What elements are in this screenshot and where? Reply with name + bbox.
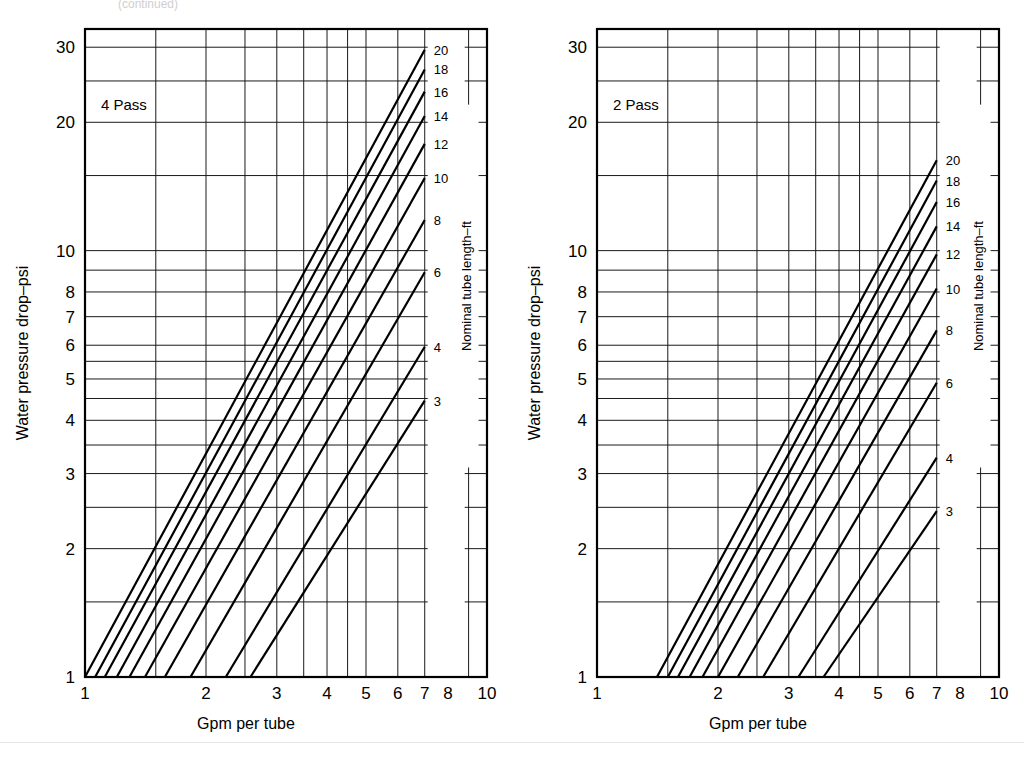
y-tick-label: 20 <box>568 113 587 132</box>
legend-title: Nominal tube length–ft <box>459 221 474 351</box>
y-tick-label: 2 <box>66 540 75 559</box>
page-bottom-rule <box>0 742 1024 743</box>
legend-label-tube-length-12: 12 <box>434 137 448 152</box>
y-tick-label: 5 <box>578 370 587 389</box>
legend-label-tube-length-18: 18 <box>434 62 448 77</box>
chart-svg-2-pass: 2018161412108643Nominal tube length–ft12… <box>512 0 1024 760</box>
pass-label: 2 Pass <box>613 96 659 113</box>
plot-border <box>85 29 487 677</box>
x-tick-label: 6 <box>905 684 914 703</box>
data-curve-tube-length-18 <box>95 69 425 677</box>
chart-panel-4-pass: 2018161412108643Nominal tube length–ft12… <box>0 0 512 760</box>
chart-panel-2-pass: 2018161412108643Nominal tube length–ft12… <box>512 0 1024 760</box>
figure-canvas: (continued) 2018161412108643Nominal tube… <box>0 0 1024 760</box>
x-tick-label: 2 <box>713 684 722 703</box>
legend-label-tube-length-20: 20 <box>434 43 448 58</box>
y-tick-label: 30 <box>568 38 587 57</box>
y-tick-label: 7 <box>66 308 75 327</box>
chart-svg-4-pass: 2018161412108643Nominal tube length–ft12… <box>0 0 512 760</box>
legend-label-tube-length-14: 14 <box>434 109 448 124</box>
x-tick-label: 4 <box>834 684 843 703</box>
data-curve-tube-length-20 <box>657 160 937 677</box>
legend-label-tube-length-3: 3 <box>434 394 441 409</box>
data-curve-tube-length-3 <box>824 511 937 677</box>
x-tick-label: 1 <box>80 684 89 703</box>
data-curve-tube-length-16 <box>678 202 937 677</box>
y-tick-label: 30 <box>56 38 75 57</box>
x-tick-label: 7 <box>420 684 429 703</box>
y-tick-label: 8 <box>578 283 587 302</box>
legend-label-tube-length-12: 12 <box>946 247 960 262</box>
x-tick-label: 3 <box>784 684 793 703</box>
data-curve-tube-length-14 <box>117 116 425 677</box>
data-curve-tube-length-18 <box>668 181 937 677</box>
data-curve-tube-length-10 <box>718 289 937 677</box>
x-tick-label: 8 <box>955 684 964 703</box>
legend-label-tube-length-10: 10 <box>946 282 960 297</box>
y-tick-label: 6 <box>578 336 587 355</box>
legend-label-tube-length-20: 20 <box>946 153 960 168</box>
y-tick-label: 7 <box>578 308 587 327</box>
x-tick-label: 1 <box>592 684 601 703</box>
data-curve-tube-length-14 <box>690 226 937 677</box>
legend-mask <box>940 30 977 677</box>
y-tick-label: 10 <box>568 242 587 261</box>
legend-label-tube-length-14: 14 <box>946 219 960 234</box>
x-tick-label: 4 <box>322 684 331 703</box>
y-tick-label: 4 <box>578 411 587 430</box>
x-axis-title: Gpm per tube <box>197 715 295 732</box>
y-tick-label: 5 <box>66 370 75 389</box>
data-curve-tube-length-12 <box>703 254 937 677</box>
y-tick-label: 6 <box>66 336 75 355</box>
x-tick-label: 7 <box>932 684 941 703</box>
y-tick-label: 10 <box>56 242 75 261</box>
x-tick-label: 5 <box>361 684 370 703</box>
legend-label-tube-length-8: 8 <box>434 213 441 228</box>
y-tick-label: 1 <box>578 668 587 687</box>
x-tick-label: 10 <box>478 684 497 703</box>
y-tick-label: 3 <box>66 465 75 484</box>
legend-label-tube-length-16: 16 <box>434 85 448 100</box>
legend-label-tube-length-6: 6 <box>434 265 441 280</box>
legend-label-tube-length-6: 6 <box>946 376 953 391</box>
x-tick-label: 2 <box>201 684 210 703</box>
legend-label-tube-length-18: 18 <box>946 174 960 189</box>
y-axis-title: Water pressure drop–psi <box>526 266 543 441</box>
y-tick-label: 2 <box>578 540 587 559</box>
y-tick-label: 8 <box>66 283 75 302</box>
y-axis-title: Water pressure drop–psi <box>14 266 31 441</box>
legend-label-tube-length-16: 16 <box>946 195 960 210</box>
pass-label: 4 Pass <box>101 96 147 113</box>
x-tick-label: 10 <box>990 684 1009 703</box>
legend-label-tube-length-3: 3 <box>946 504 953 519</box>
x-tick-label: 6 <box>393 684 402 703</box>
x-tick-label: 8 <box>443 684 452 703</box>
x-axis-title: Gpm per tube <box>709 715 807 732</box>
data-curve-tube-length-6 <box>191 272 425 677</box>
x-tick-label: 3 <box>272 684 281 703</box>
legend-label-tube-length-8: 8 <box>946 323 953 338</box>
plot-border <box>597 29 999 677</box>
y-tick-label: 20 <box>56 113 75 132</box>
y-tick-label: 3 <box>578 465 587 484</box>
legend-title: Nominal tube length–ft <box>971 221 986 351</box>
legend-label-tube-length-10: 10 <box>434 171 448 186</box>
y-tick-label: 1 <box>66 668 75 687</box>
data-curve-tube-length-16 <box>105 92 425 677</box>
data-curve-tube-length-20 <box>85 50 425 677</box>
y-tick-label: 4 <box>66 411 75 430</box>
legend-label-tube-length-4: 4 <box>946 451 953 466</box>
legend-label-tube-length-4: 4 <box>434 340 441 355</box>
data-curve-tube-length-4 <box>798 458 936 677</box>
x-tick-label: 5 <box>873 684 882 703</box>
